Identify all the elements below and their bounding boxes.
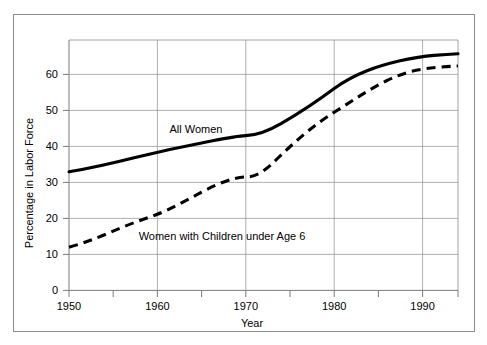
x-tick-label-1990: 1990: [410, 300, 434, 312]
chart-svg: 60 50 40 30 20 10 0 1950 1960 1970 1980 …: [0, 0, 487, 345]
vertical-gridlines: [157, 40, 422, 290]
x-tick-labels: 1950 1960 1970 1980 1990: [57, 300, 435, 312]
plot-area-border: [69, 40, 458, 290]
axes: [69, 40, 458, 290]
series-label-women-children: Women with Children under Age 6: [139, 230, 306, 242]
x-axis-title: Year: [241, 317, 264, 329]
y-tick-label-0: 0: [52, 284, 58, 296]
chart-page: 60 50 40 30 20 10 0 1950 1960 1970 1980 …: [0, 0, 487, 345]
line-chart: 60 50 40 30 20 10 0 1950 1960 1970 1980 …: [0, 0, 487, 345]
y-tick-label-60: 60: [46, 68, 58, 80]
y-tick-label-50: 50: [46, 104, 58, 116]
y-tick-label-10: 10: [46, 248, 58, 260]
series-line-all-women: [69, 54, 458, 172]
y-tick-label-30: 30: [46, 176, 58, 188]
series-label-all-women: All Women: [170, 123, 223, 135]
series-line-women-children: [69, 66, 458, 247]
y-tick-label-20: 20: [46, 212, 58, 224]
y-tick-labels: 60 50 40 30 20 10 0: [46, 68, 58, 296]
x-tick-label-1980: 1980: [322, 300, 346, 312]
x-tickmarks: [69, 290, 458, 297]
x-tick-label-1960: 1960: [145, 300, 169, 312]
horizontal-gridlines: [69, 74, 458, 254]
y-axis-title: Percentage in Labor Force: [23, 118, 35, 248]
y-tickmarks: [63, 74, 69, 290]
x-tick-label-1950: 1950: [57, 300, 81, 312]
y-tick-label-40: 40: [46, 140, 58, 152]
x-tick-label-1970: 1970: [234, 300, 258, 312]
